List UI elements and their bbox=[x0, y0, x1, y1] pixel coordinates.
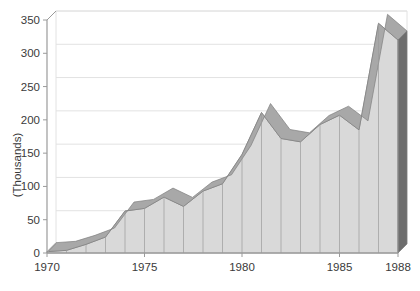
chart-container: 050100150200250300350 197019751980198519… bbox=[0, 0, 420, 291]
y-tick-label: 50 bbox=[27, 214, 40, 226]
x-tick-label: 1975 bbox=[132, 261, 158, 273]
y-tick-label: 200 bbox=[21, 114, 40, 126]
x-tick-label: 1980 bbox=[229, 261, 255, 273]
area-chart: 050100150200250300350 197019751980198519… bbox=[0, 0, 420, 291]
y-tick-label: 350 bbox=[21, 14, 40, 26]
x-tick-label: 1985 bbox=[327, 261, 353, 273]
y-tick-label: 250 bbox=[21, 81, 40, 93]
y-axis-title: (Thousands) bbox=[11, 133, 23, 198]
y-tick-label: 0 bbox=[34, 247, 40, 259]
y-tick-label: 300 bbox=[21, 47, 40, 59]
x-tick-label: 1988 bbox=[385, 261, 411, 273]
area-right-face bbox=[398, 31, 407, 253]
y-tick-label: 100 bbox=[21, 180, 40, 192]
y-tick-label: 150 bbox=[21, 147, 40, 159]
x-tick-label: 1970 bbox=[34, 261, 60, 273]
